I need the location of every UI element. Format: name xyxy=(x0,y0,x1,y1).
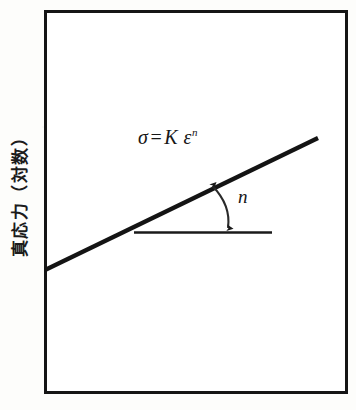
hardening-equation: σ=K εn xyxy=(138,126,198,149)
figure-root: 真応力（対数） σ=K εn n xyxy=(0,0,356,410)
equation-variable: ε xyxy=(184,126,192,148)
y-axis-label-text: 真応力（対数） xyxy=(7,127,32,257)
y-axis-label: 真応力（対数） xyxy=(0,0,38,410)
equation-sigma: σ xyxy=(138,126,148,148)
equation-operator: = xyxy=(148,126,164,148)
plot-frame xyxy=(44,10,348,394)
equation-coefficient: K xyxy=(164,126,178,148)
equation-exponent: n xyxy=(192,126,198,138)
slope-exponent-label: n xyxy=(238,186,248,208)
